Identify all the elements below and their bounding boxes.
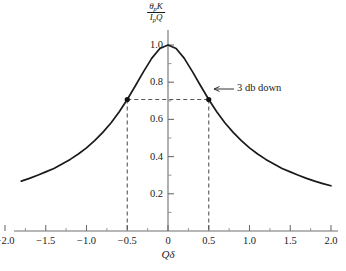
y-tick-label: 0.8 [0, 77, 163, 88]
y-axis-title-numerator: θpK [147, 2, 165, 13]
x-tick-label: 0.5 [202, 236, 215, 247]
x-tick-label: 1.5 [284, 236, 297, 247]
x-tick-label: −1.5 [36, 236, 55, 247]
y-axis-title: θpK IpQ [147, 2, 165, 23]
x-tick-label: −0.5 [118, 236, 137, 247]
half-power-marker [206, 97, 211, 102]
x-axis-title: Qδ [161, 249, 174, 260]
x-tick-label: 2.0 [324, 236, 337, 247]
x-axis-group [5, 225, 338, 231]
y-tick-label: 1.0 [0, 40, 163, 51]
y-axis-title-denominator: IpQ [147, 13, 165, 23]
three-db-down-label: 3 db down [237, 83, 281, 94]
y-axis-group [168, 30, 174, 231]
annotation-arrow-group [214, 87, 234, 92]
x-tick-label: 0 [165, 236, 170, 247]
y-axis-major-ticks [168, 45, 174, 194]
y-tick-label: 0.6 [0, 114, 163, 125]
x-tick-label: −1.0 [77, 236, 96, 247]
y-tick-label: 0.4 [0, 151, 163, 162]
chart-figure: θpK IpQ Qδ 3 db down −2.0−1.5−1.0−0.500.… [0, 0, 346, 271]
y-tick-label: 0.2 [0, 189, 163, 200]
x-tick-label: −2.0 [0, 236, 15, 247]
x-tick-label: 1.0 [243, 236, 256, 247]
half-power-marker [125, 97, 130, 102]
